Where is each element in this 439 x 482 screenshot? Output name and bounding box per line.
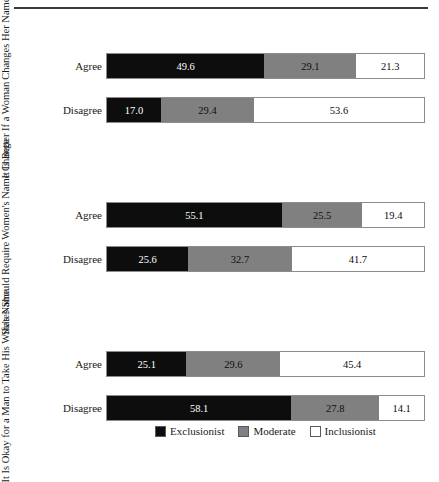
segment-moderate: 29.4 (161, 98, 254, 122)
segment-inclusionist: 45.4 (280, 352, 424, 376)
segment-moderate: 27.8 (291, 396, 379, 420)
stacked-bar: 49.6 29.1 21.3 (106, 53, 425, 79)
segment-exclusionist: 17.0 (107, 98, 161, 122)
bar-row: Disagree 58.1 27.8 14.1 (0, 395, 439, 421)
legend-item-moderate: Moderate (238, 425, 295, 437)
segment-inclusionist: 53.6 (254, 98, 424, 122)
segment-exclusionist: 55.1 (107, 203, 282, 227)
segment-inclusionist: 41.7 (292, 247, 424, 271)
stacked-bar: 25.6 32.7 41.7 (106, 246, 425, 272)
legend-swatch-icon (310, 426, 321, 437)
bar-row: Disagree 25.6 32.7 41.7 (0, 246, 439, 272)
group-axis-label-2: States Should Require Women's Name Chang… (0, 177, 52, 297)
segment-exclusionist: 58.1 (107, 396, 291, 420)
question-group-1: It Is Better If a Woman Changes Her Name… (0, 30, 439, 150)
bar-row: Disagree 17.0 29.4 53.6 (0, 97, 439, 123)
question-group-2: States Should Require Women's Name Chang… (0, 179, 439, 299)
legend-item-inclusionist: Inclusionist (310, 425, 376, 437)
row-label-agree: Agree (12, 351, 102, 377)
group-axis-label-1: It Is Better If a Woman Changes Her Name (0, 28, 52, 148)
legend-label: Moderate (253, 425, 295, 437)
bar-row: Agree 55.1 25.5 19.4 (0, 202, 439, 228)
segment-moderate: 29.1 (264, 54, 356, 78)
group-axis-label-3: It Is Okay for a Man to Take His Wife's … (0, 326, 52, 446)
stacked-bar: 17.0 29.4 53.6 (106, 97, 425, 123)
row-label-agree: Agree (12, 202, 102, 228)
segment-moderate: 32.7 (188, 247, 292, 271)
row-label-disagree: Disagree (12, 246, 102, 272)
segment-exclusionist: 25.6 (107, 247, 188, 271)
bar-row: Agree 49.6 29.1 21.3 (0, 53, 439, 79)
segment-moderate: 25.5 (282, 203, 363, 227)
row-label-disagree: Disagree (12, 97, 102, 123)
segment-exclusionist: 49.6 (107, 54, 264, 78)
segment-inclusionist: 21.3 (356, 54, 424, 78)
header-rule (14, 7, 428, 9)
chart-legend: Exclusionist Moderate Inclusionist (106, 422, 425, 440)
row-label-disagree: Disagree (12, 395, 102, 421)
segment-moderate: 29.6 (186, 352, 280, 376)
legend-swatch-icon (238, 426, 249, 437)
bar-row: Agree 25.1 29.6 45.4 (0, 351, 439, 377)
stacked-bar: 55.1 25.5 19.4 (106, 202, 425, 228)
segment-inclusionist: 19.4 (362, 203, 423, 227)
legend-item-exclusionist: Exclusionist (155, 425, 224, 437)
legend-label: Exclusionist (170, 425, 224, 437)
row-label-agree: Agree (12, 53, 102, 79)
legend-label: Inclusionist (325, 425, 376, 437)
legend-swatch-icon (155, 426, 166, 437)
segment-inclusionist: 14.1 (379, 396, 424, 420)
stacked-bar: 58.1 27.8 14.1 (106, 395, 425, 421)
segment-exclusionist: 25.1 (107, 352, 186, 376)
stacked-bar: 25.1 29.6 45.4 (106, 351, 425, 377)
